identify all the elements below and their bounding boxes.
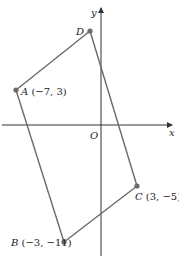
x-axis-label: x: [169, 127, 175, 138]
label-a: A (−7, 3): [20, 86, 67, 97]
label-d: D: [75, 26, 84, 37]
label-c: C (3, −5): [135, 191, 179, 202]
origin-label: O: [90, 130, 98, 141]
edge-cd: [90, 31, 137, 186]
coordinate-diagram: y x O D A (−7, 3) C (3, −5) B (−3, −11): [0, 0, 179, 256]
edge-ab: [16, 90, 64, 242]
point-d: [87, 28, 92, 33]
point-a: [13, 87, 18, 92]
edge-da: [16, 31, 90, 90]
y-axis-label: y: [90, 7, 97, 18]
label-b: B (−3, −11): [10, 237, 72, 248]
point-c: [134, 183, 139, 188]
